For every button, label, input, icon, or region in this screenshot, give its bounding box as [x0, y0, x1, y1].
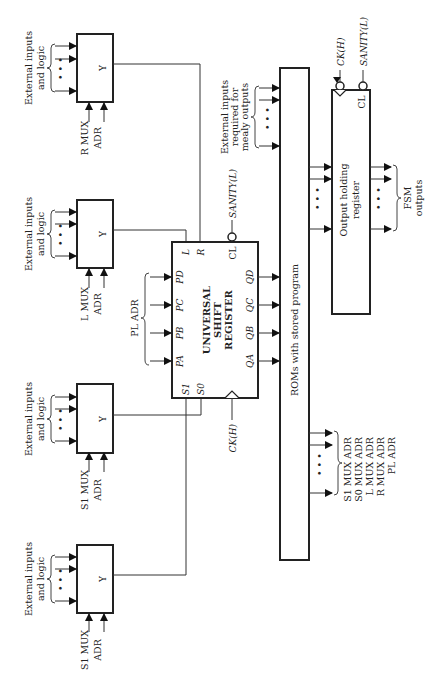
pin-l: L: [181, 249, 191, 256]
l-mux-inputs-brace: [47, 210, 55, 258]
l-mux-adr-label-2: ADR: [92, 292, 103, 315]
s1-mux-upper-adr-label: S1 MUX: [79, 470, 90, 510]
s1-mux-upper: • • • External inputs and logic Y S1 MUX…: [23, 382, 113, 510]
shift-register-title: UNIVERSAL: [201, 286, 212, 354]
mealy-inputs-brace: [251, 86, 259, 148]
r-mux-adr-label: R MUX: [79, 120, 90, 155]
s1-mux-upper-adr-label-2: ADR: [92, 478, 103, 501]
pin-pa: PA: [175, 355, 185, 368]
s1-mux-lower-adr-label-2: ADR: [92, 638, 103, 661]
l-mux-inputs-label-2: and logic: [35, 212, 46, 256]
pin-r: R: [196, 248, 206, 256]
s1-mux-upper-inputs-brace: [47, 395, 55, 443]
output-clock-label: CK(H): [336, 37, 346, 66]
pin-s0: S0: [196, 383, 206, 395]
s1-mux-upper-inputs-label-2: and logic: [35, 397, 46, 441]
sanity-label: SANITY(L): [228, 168, 238, 218]
s1-mux-lower: • • • External inputs and logic Y S1 MUX…: [23, 542, 113, 670]
l-mux-inputs-label: External inputs: [23, 197, 34, 271]
addr-pl: PL ADR: [386, 436, 397, 474]
mealy-inputs-label-3: mealy outputs: [239, 83, 250, 151]
addr-r-mux: R MUX ADR: [375, 436, 386, 496]
shift-register-title-2: SHIFT: [212, 301, 223, 337]
output-register-label-2: register: [350, 180, 361, 219]
s1-mux-upper-inputs-label: External inputs: [23, 382, 34, 456]
pin-qd: QD: [245, 270, 255, 285]
mealy-dots: • • •: [262, 107, 273, 130]
cl-inversion-bubble: [228, 233, 236, 241]
clock-label: CK(H): [228, 424, 238, 453]
address-outputs-dots: • • •: [314, 453, 325, 476]
addr-s1-mux: S1 MUX ADR: [342, 436, 353, 502]
output-clock-bubble: [336, 82, 344, 90]
l-mux-dots: • • •: [55, 223, 66, 246]
pin-pd: PD: [175, 270, 185, 284]
fsm-diagram: • • • External inputs and logic Y R MUX …: [0, 0, 430, 698]
pin-qb: QB: [245, 326, 255, 340]
pl-adr-label: PL ADR: [129, 298, 140, 336]
l-mux-output-y: Y: [98, 230, 108, 238]
r-mux-adr-label-2: ADR: [92, 126, 103, 149]
s1-wire: [113, 398, 186, 575]
shift-register-title-3: REGISTER: [223, 289, 234, 349]
output-register-label: Output holding: [338, 164, 349, 237]
r-mux-inputs-label: External inputs: [23, 31, 34, 105]
addr-l-mux: L MUX ADR: [364, 436, 375, 495]
universal-shift-register: PL ADR PA PB PC PD L R CL S1 S0 UNIVERSA…: [129, 168, 279, 452]
pl-adr-brace: [141, 273, 149, 365]
r-mux-output-y: Y: [98, 64, 108, 72]
l-wire: [113, 230, 186, 242]
r-mux-dots: • • •: [55, 57, 66, 80]
pin-qc: QC: [245, 298, 255, 312]
r-wire: [113, 64, 200, 242]
fsm-outputs-brace: [393, 165, 401, 231]
output-holding-register: Output holding register CK(H) SANITY(L) …: [332, 16, 424, 314]
s1-mux-lower-inputs-label-2: and logic: [35, 557, 46, 601]
rom-label: ROMs with stored program: [289, 264, 300, 396]
output-cl-bubble: [359, 82, 367, 90]
s0-wire: [113, 398, 201, 415]
rom-to-output-dots: • • •: [312, 187, 323, 210]
address-outputs-brace: [334, 431, 342, 495]
s1-mux-lower-output-y: Y: [98, 575, 108, 583]
fsm-outputs-dots: • • •: [373, 187, 384, 210]
pin-s1: S1: [181, 383, 191, 395]
output-sanity-label: SANITY(L): [359, 16, 369, 66]
addr-s0-mux: S0 MUX ADR: [353, 436, 364, 502]
pin-pb: PB: [175, 326, 185, 340]
pin-pc: PC: [175, 298, 185, 312]
l-mux-adr-label: L MUX: [79, 287, 90, 321]
s1-mux-lower-dots: • • •: [55, 568, 66, 591]
pin-cl: CL: [228, 247, 238, 260]
l-mux: • • • External inputs and logic Y L MUX …: [23, 197, 113, 321]
r-mux-inputs-brace: [47, 44, 55, 92]
fsm-outputs-label-2: outputs: [413, 180, 424, 217]
s1-mux-lower-inputs-brace: [47, 555, 55, 603]
output-pin-cl: CL: [357, 96, 367, 109]
s1-mux-lower-inputs-label: External inputs: [23, 542, 34, 616]
pin-qa: QA: [245, 354, 255, 368]
r-mux: • • • External inputs and logic Y R MUX …: [23, 31, 113, 156]
s1-mux-upper-dots: • • •: [55, 408, 66, 431]
s1-mux-upper-output-y: Y: [98, 415, 108, 423]
s1-mux-lower-adr-label: S1 MUX: [79, 630, 90, 670]
r-mux-inputs-label-2: and logic: [35, 46, 46, 90]
fsm-outputs-label: FSM: [402, 186, 413, 209]
